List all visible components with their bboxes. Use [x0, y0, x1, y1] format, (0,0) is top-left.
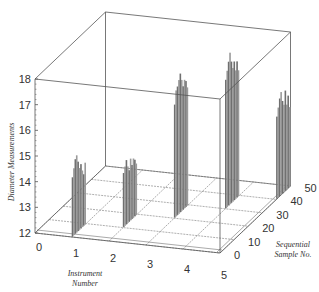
bar [131, 165, 133, 219]
bar [231, 62, 233, 203]
top-front-edge [35, 79, 220, 99]
bar [233, 61, 235, 200]
bar [134, 160, 136, 216]
bar [75, 159, 77, 233]
bar [178, 80, 180, 213]
y-tick-label: 50 [305, 182, 317, 194]
y-tick-label: 40 [290, 195, 302, 207]
floor-left-edge [35, 166, 106, 233]
bar [187, 87, 189, 205]
bar [235, 70, 237, 198]
bar [79, 168, 81, 230]
bar [80, 164, 82, 228]
y-tick-label: 0 [234, 249, 240, 261]
bars [72, 53, 291, 237]
y-axis-label-line1: Sequential [276, 240, 311, 249]
z-tick-label: 18 [19, 73, 31, 85]
z-tick-label: 16 [19, 124, 31, 136]
bar [72, 177, 74, 236]
bar [278, 108, 280, 198]
x-axis-label-line2: Number [71, 279, 99, 288]
bar [177, 87, 179, 215]
x-tick-label: 5 [221, 269, 227, 281]
x-tick-label: 1 [73, 247, 79, 259]
z-tick-label: 17 [19, 99, 31, 111]
bar [232, 68, 234, 201]
bar [82, 170, 84, 226]
floor-front-edge [35, 233, 220, 253]
top-left-edge [35, 12, 106, 79]
bar [76, 155, 78, 232]
bar [126, 160, 128, 224]
bar [286, 105, 288, 190]
bar [287, 96, 289, 188]
bar [282, 101, 284, 193]
grid-line-s [63, 206, 248, 226]
bar [77, 162, 79, 231]
bar [175, 90, 177, 216]
bar [283, 105, 285, 192]
z-tick-label: 12 [19, 227, 31, 239]
bar [285, 91, 287, 191]
bar [174, 105, 176, 218]
x-axis-label-line1: Instrument [67, 269, 103, 278]
bar [73, 168, 75, 235]
bar [280, 92, 282, 195]
y-tick-label: 10 [248, 236, 260, 248]
x-tick-label: 0 [36, 241, 42, 253]
bar [185, 81, 187, 207]
z-tick-label: 13 [19, 201, 31, 213]
grid-line-x [183, 182, 254, 249]
bar [182, 86, 184, 209]
bar [127, 166, 129, 222]
y-tick-label: 30 [276, 209, 288, 221]
bar [225, 80, 227, 208]
x-tick-label: 2 [110, 252, 116, 264]
floor-front-inner [37, 230, 222, 250]
bar [229, 53, 231, 204]
x-tick-label: 4 [184, 263, 190, 275]
y-axis-label-line2: Sample No. [275, 250, 312, 259]
bar [238, 70, 240, 196]
bar [181, 80, 183, 211]
x-tick-label: 3 [147, 258, 153, 270]
bar [83, 174, 85, 225]
bar [184, 80, 186, 208]
z-axis-title: Diameter Measurements [7, 123, 16, 203]
bar [123, 173, 125, 227]
bar [289, 107, 291, 187]
3d-bar-chart: 1213141516171801234501020304050 Diameter… [0, 0, 319, 292]
z-tick-label: 14 [19, 176, 31, 188]
bar [228, 62, 230, 206]
bar [128, 170, 130, 221]
y-tick-label: 20 [262, 222, 274, 234]
grid-line-x [109, 174, 180, 241]
bar [124, 167, 126, 226]
bar [135, 164, 137, 215]
bar [276, 117, 278, 199]
bar [84, 163, 86, 225]
top-back-edge [106, 12, 291, 32]
tick-labels: 1213141516171801234501020304050 [19, 73, 317, 281]
z-axis-label: Diameter Measurements [7, 123, 16, 203]
bar [133, 159, 135, 218]
bar [279, 99, 281, 197]
bar [130, 159, 132, 221]
z-tick-label: 15 [19, 150, 31, 162]
